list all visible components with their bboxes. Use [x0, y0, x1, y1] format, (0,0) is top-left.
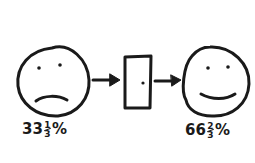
arrow-right-icon — [93, 74, 120, 86]
right-label-denominator: 3 — [207, 131, 214, 139]
right-percentage-label: 6623% — [185, 121, 230, 139]
left-label-fraction: 13 — [44, 121, 51, 138]
left-label-denominator: 3 — [44, 130, 51, 138]
arrow-right-icon — [155, 75, 181, 86]
door-icon — [125, 56, 151, 108]
sad-face-icon — [18, 47, 89, 116]
right-label-percent: % — [215, 121, 230, 139]
left-label-whole: 33 — [22, 120, 43, 138]
right-label-whole: 66 — [185, 121, 206, 139]
left-label-percent: % — [52, 120, 67, 138]
left-percentage-label: 3313% — [22, 120, 67, 138]
right-label-fraction: 23 — [207, 122, 214, 139]
happy-face-icon — [183, 47, 249, 116]
